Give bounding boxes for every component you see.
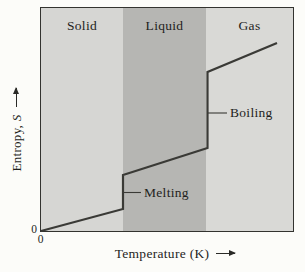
x-axis-label-text: Temperature (K): [115, 246, 210, 261]
y-axis-arrow-icon: [16, 88, 17, 107]
x-axis-label: Temperature (K): [55, 246, 295, 262]
y-axis-label-text: Entropy,: [9, 121, 24, 171]
entropy-curve-path: [41, 43, 277, 231]
x-axis-arrow-icon: [216, 253, 235, 254]
origin-zero-x: 0: [36, 233, 45, 245]
y-axis-label: Entropy, S: [9, 75, 25, 185]
y-axis-symbol: S: [9, 114, 24, 121]
boiling-label: Boiling: [230, 105, 273, 121]
plot-area: Solid Liquid Gas Melting Boiling: [40, 7, 294, 232]
entropy-temperature-figure: Solid Liquid Gas Melting Boiling Entropy…: [0, 0, 305, 272]
melting-label: Melting: [144, 184, 189, 200]
